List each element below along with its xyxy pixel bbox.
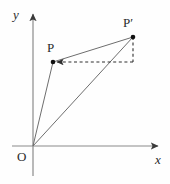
point-marker-p	[51, 60, 56, 65]
vector-diagram-figure: y x O P P′	[0, 0, 170, 184]
point-marker-p-prime	[131, 35, 136, 40]
origin-label: O	[17, 150, 26, 163]
axes-group	[12, 14, 158, 176]
x-axis-label: x	[155, 153, 161, 166]
point-label-p: P	[47, 41, 54, 54]
y-axis-label: y	[13, 8, 19, 21]
segment-origin-to-p	[33, 62, 53, 146]
point-label-p-prime: P′	[123, 16, 133, 29]
